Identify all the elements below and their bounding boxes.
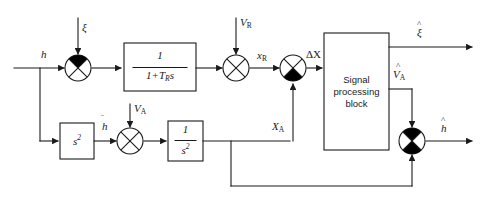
lag-denominator: 1+TRs: [124, 70, 196, 81]
sum-junction-deltax: [280, 55, 306, 81]
sum-junction-h-xi: [65, 55, 91, 81]
sum-junction-xr-vr: [223, 55, 249, 81]
integrator-numerator: 1: [168, 124, 203, 135]
label-vr-main: V: [240, 16, 247, 28]
label-va-input: VA: [134, 103, 146, 114]
diagram-canvas: [0, 0, 484, 210]
label-va-hat: VA: [393, 69, 405, 80]
label-h-hat: h: [441, 123, 447, 134]
s2-exponent: 2: [77, 133, 81, 142]
label-va-sub: A: [141, 107, 146, 116]
label-xi-hat: ξ: [417, 27, 422, 38]
label-vahat-sub: A: [400, 73, 405, 82]
signal-processing-block-label: Signal processing block: [324, 74, 389, 110]
label-xa-sub: A: [279, 125, 284, 134]
label-delta-x: ΔX: [306, 49, 321, 60]
s2-label: s2: [60, 134, 94, 147]
label-va-main: V: [134, 102, 141, 114]
lag-den-post: s: [170, 69, 174, 81]
label-xi-input: ξ: [82, 22, 87, 33]
label-xa: XA: [272, 121, 284, 132]
label-xr-sub: R: [262, 54, 267, 63]
lag-den-sub: R: [165, 74, 170, 83]
integrator-den-exp: 2: [186, 142, 190, 151]
label-vr-sub: R: [247, 21, 252, 30]
label-xr: xR: [257, 50, 267, 61]
block-diagram: h ξ VR VA xR ΔX XA ¨ h ^ ξ ^ VA ^ h 1 1+…: [0, 0, 484, 210]
lag-numerator: 1: [124, 50, 196, 61]
label-vahat-main: V: [393, 68, 400, 80]
sum-junction-hddot-va: [117, 128, 143, 154]
label-xa-main: X: [272, 120, 279, 132]
label-h-input: h: [41, 49, 47, 60]
lag-den-pre: 1+T: [146, 69, 165, 81]
integrator-denominator: s2: [168, 143, 203, 156]
sum-junction-h-hat: [399, 128, 425, 154]
label-vr-input: VR: [240, 17, 252, 28]
label-hddot: h: [102, 121, 108, 132]
